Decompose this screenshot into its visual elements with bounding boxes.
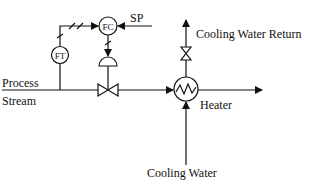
fc-label: FC [102,22,113,32]
process-label: Process [2,77,39,89]
ft-label: FT [55,51,66,61]
pid-diagram: FC FT SP Cooling Water Return Process St… [0,0,314,185]
cooling-water-return-label: Cooling Water Return [196,28,301,40]
actuator-icon [99,57,117,66]
heater-label: Heater [200,99,232,111]
return-valve-icon [181,47,191,60]
stream-label: Stream [2,95,36,107]
cooling-water-label: Cooling Water [147,167,217,179]
setpoint-label: SP [130,12,143,24]
